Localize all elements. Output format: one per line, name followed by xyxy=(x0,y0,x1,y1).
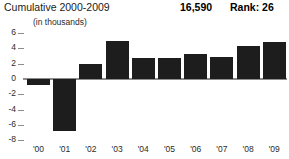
y-axis-tick-mark xyxy=(18,125,24,126)
bar xyxy=(106,41,129,79)
y-axis-tick-mark xyxy=(18,64,24,65)
bar xyxy=(237,46,260,79)
x-axis-tick-label: '09 xyxy=(263,144,285,154)
y-axis-tick-label: 4 xyxy=(0,43,16,52)
x-axis-tick-label: '08 xyxy=(237,144,259,154)
y-axis-tick-mark xyxy=(18,48,24,49)
bar xyxy=(27,79,50,85)
bar xyxy=(79,64,102,79)
x-axis-tick-label: '03 xyxy=(106,144,128,154)
bar-chart-plot: 6420-2-4-6-8'00'01'02'03'04'05'06'07'08'… xyxy=(0,0,289,159)
y-axis-tick-mark xyxy=(18,110,24,111)
y-axis-tick-mark xyxy=(18,140,24,141)
bar xyxy=(132,58,155,79)
y-axis-tick-label: -8 xyxy=(0,135,16,144)
y-axis-tick-label: 2 xyxy=(0,59,16,68)
y-axis-tick-label: -6 xyxy=(0,120,16,129)
x-axis-tick-label: '06 xyxy=(185,144,207,154)
bar xyxy=(210,57,233,79)
y-axis-tick-mark xyxy=(18,33,24,34)
bar xyxy=(184,54,207,79)
x-axis-tick-label: '00 xyxy=(28,144,50,154)
x-axis-tick-label: '05 xyxy=(159,144,181,154)
chart-screenshot: Cumulative 2000-2009 16,590 Rank: 26 (in… xyxy=(0,0,289,159)
bar xyxy=(263,42,286,79)
y-axis-tick-mark xyxy=(18,94,24,95)
bar xyxy=(53,79,76,131)
x-axis-tick-label: '01 xyxy=(54,144,76,154)
x-axis-tick-label: '07 xyxy=(211,144,233,154)
y-axis-tick-label: -4 xyxy=(0,105,16,114)
x-axis-tick-label: '02 xyxy=(80,144,102,154)
y-axis-tick-label: 6 xyxy=(0,28,16,37)
y-axis-tick-label: -2 xyxy=(0,89,16,98)
bar xyxy=(158,58,181,79)
x-axis-tick-label: '04 xyxy=(132,144,154,154)
y-axis-tick-label: 0 xyxy=(0,74,16,83)
